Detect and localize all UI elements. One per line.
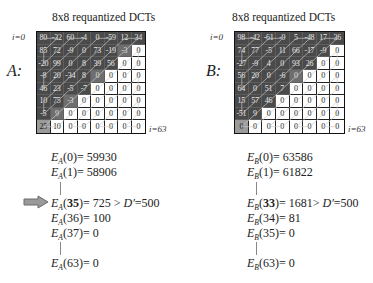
energy-line: EB(33)= 1681> D′=500 <box>247 196 359 211</box>
panel-a-title: 8x8 requantized DCTs <box>52 11 155 23</box>
dct-cell: 93 <box>290 57 304 70</box>
dct-cell: 10 <box>51 120 65 133</box>
dct-cell: 0 <box>132 45 146 58</box>
dct-cell: -32 <box>51 32 65 45</box>
dct-cell: -9 <box>64 45 78 58</box>
dct-cell: 0 <box>105 120 119 133</box>
panel-a-energy-list: EA(0)= 59930EA(1)= 58906EA(35)= 725 > D′… <box>51 150 160 272</box>
dct-cell: 46 <box>37 83 51 96</box>
dct-cell: 0 <box>303 95 317 108</box>
energy-line: EA(1)= 58906 <box>51 165 160 180</box>
energy-line: EA(36)= 100 <box>51 211 160 226</box>
dct-cell: 34 <box>132 32 146 45</box>
dct-cell: 0 <box>78 95 92 108</box>
dct-cell: -42 <box>249 32 263 45</box>
dct-cell: 39 <box>91 57 105 70</box>
dct-cell: 0 <box>262 108 276 121</box>
energy-line: EA(37)= 0 <box>51 226 160 241</box>
dct-cell: 46 <box>262 95 276 108</box>
dct-cell: 0 <box>64 57 78 70</box>
panel-b-start-label: i=0 <box>210 32 223 42</box>
dct-cell: 8 <box>78 70 92 83</box>
dct-cell: 36 <box>330 32 344 45</box>
panel-b-title: 8x8 requantized DCTs <box>232 11 335 23</box>
dct-cell: 0 <box>132 108 146 121</box>
dct-cell: 0 <box>290 70 304 83</box>
dct-cell: 0 <box>118 83 132 96</box>
dct-cell: 0 <box>105 70 119 83</box>
dct-cell: 0 <box>317 120 331 133</box>
dct-cell: -5 <box>64 83 78 96</box>
dct-cell: -34 <box>64 70 78 83</box>
dct-cell: 12 <box>118 32 132 45</box>
dct-cell: 60 <box>64 32 78 45</box>
dct-cell: 0 <box>262 70 276 83</box>
energy-line: EA(0)= 59930 <box>51 150 160 165</box>
dct-cell: 0 <box>118 95 132 108</box>
dct-cell: 0 <box>132 95 146 108</box>
dct-cell: 0 <box>105 108 119 121</box>
dct-cell: 0 <box>317 95 331 108</box>
dct-cell: -4 <box>78 32 92 45</box>
dct-cell: 80 <box>37 32 51 45</box>
dct-cell: 0 <box>290 83 304 96</box>
panel-b-energy-list: EB(0)= 63586EB(1)= 61822EB(33)= 1681> D′… <box>247 150 359 272</box>
dct-cell: 0 <box>290 95 304 108</box>
dct-cell: -9 <box>317 45 331 58</box>
dct-cell: -8 <box>37 70 51 83</box>
dct-cell: 26 <box>303 57 317 70</box>
dct-cell: 0 <box>303 70 317 83</box>
dct-cell: 0 <box>330 120 344 133</box>
dct-cell: 0 <box>317 83 331 96</box>
dct-cell: 0 <box>235 120 249 133</box>
dct-cell: 5 <box>290 32 304 45</box>
dct-cell: 0 <box>330 45 344 58</box>
dct-cell: 9 <box>51 108 65 121</box>
dct-cell: 0 <box>303 120 317 133</box>
dct-cell: 74 <box>235 45 249 58</box>
dct-cell: 0 <box>118 57 132 70</box>
dct-cell: 0 <box>317 70 331 83</box>
dct-cell: 0 <box>64 120 78 133</box>
dct-cell: -3 <box>118 45 132 58</box>
dct-cell: 75 <box>51 95 65 108</box>
dct-cell: -7 <box>78 83 92 96</box>
dct-cell: 0 <box>330 108 344 121</box>
dct-cell: 51 <box>262 83 276 96</box>
dct-cell: 0 <box>118 108 132 121</box>
dct-cell: 77 <box>249 45 263 58</box>
right-arrow-icon <box>23 195 49 209</box>
dct-cell: -20 <box>37 57 51 70</box>
dct-cell: 23 <box>51 83 65 96</box>
panel-b-dct-grid: 98-42-61-95-4817367477-51166-17-90-27-94… <box>234 31 345 134</box>
dct-cell: 0 <box>91 120 105 133</box>
dct-cell: -19 <box>105 45 119 58</box>
energy-line: EB(1)= 61822 <box>247 165 359 180</box>
dct-cell: 0 <box>330 57 344 70</box>
dct-cell: -27 <box>235 57 249 70</box>
dct-cell: 0 <box>290 120 304 133</box>
dct-cell: 72 <box>51 45 65 58</box>
panel-b-side-label: B: <box>206 62 221 80</box>
energy-line: EA(63)= 0 <box>51 256 160 271</box>
dct-cell: 0 <box>330 70 344 83</box>
dct-cell: 0 <box>132 57 146 70</box>
dct-cell: 0 <box>262 120 276 133</box>
dct-cell: 0 <box>91 32 105 45</box>
dct-cell: 0 <box>290 108 304 121</box>
dct-cell: 9 <box>249 108 263 121</box>
energy-line: EB(34)= 81 <box>247 211 359 226</box>
dct-cell: 0 <box>91 83 105 96</box>
dct-cell: 57 <box>249 95 263 108</box>
dct-cell: 0 <box>132 83 146 96</box>
dct-cell: 0 <box>132 120 146 133</box>
dct-cell: 66 <box>290 45 304 58</box>
dct-cell: 0 <box>249 83 263 96</box>
ellipsis-bar <box>256 182 257 195</box>
dct-cell: 56 <box>235 70 249 83</box>
dct-cell: 0 <box>330 95 344 108</box>
dct-cell: 0 <box>78 120 92 133</box>
dct-cell: 0 <box>317 57 331 70</box>
dct-cell: -51 <box>235 108 249 121</box>
dct-cell: 0 <box>303 83 317 96</box>
